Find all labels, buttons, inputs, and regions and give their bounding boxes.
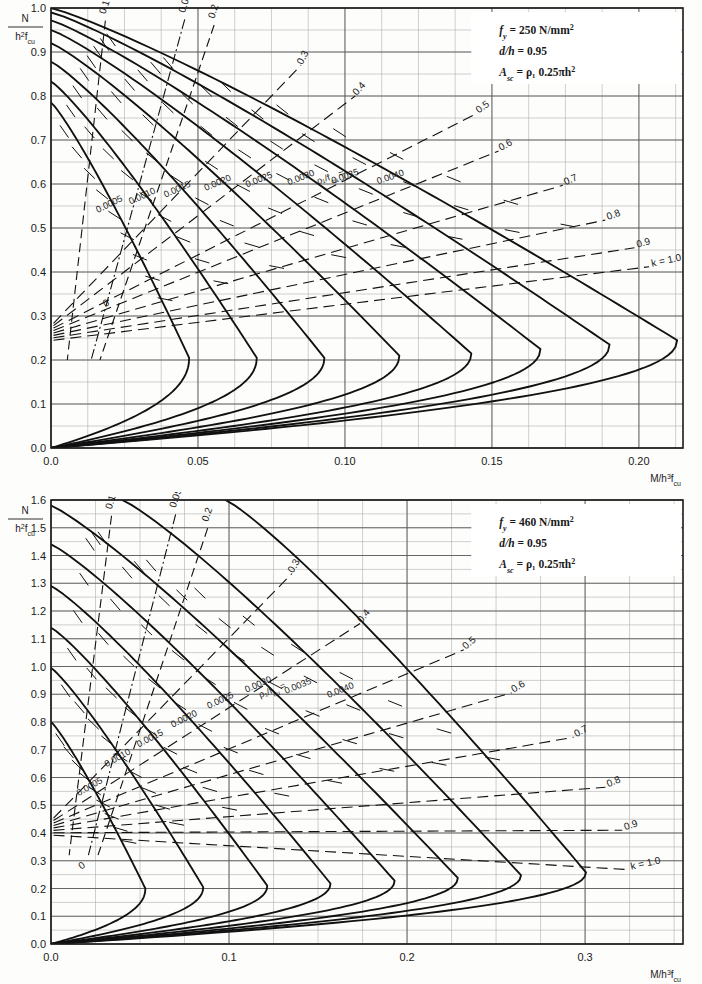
y-tick-label: 0.0 — [31, 938, 46, 950]
y-tick-label: 0.7 — [31, 134, 46, 146]
info-dh: d/h = 0.95 — [499, 537, 547, 549]
y-tick-label: 1.6 — [31, 494, 46, 506]
chart-page: 0.00.10.20.30.40.50.60.70.80.91.00.00.05… — [0, 0, 702, 984]
info-dh: d/h = 0.95 — [499, 45, 547, 57]
y-tick-label: 0.3 — [31, 855, 46, 867]
y-tick-label: 0.9 — [31, 46, 46, 58]
y-tick-label: 0.1 — [31, 398, 46, 410]
k-label: k = 1.0 — [650, 252, 682, 269]
y-tick-label: 0.7 — [31, 744, 46, 756]
x-axis-tick-labels: 0.00.050.100.150.20 — [43, 455, 649, 467]
x-tick-label: 0.0 — [43, 455, 58, 467]
k-label: 0.8 — [605, 773, 622, 789]
k-label: 0.5 — [460, 634, 478, 652]
rho-series-label: ρ₁/fcu = — [315, 168, 346, 189]
k-label: 0.9 — [635, 235, 652, 250]
chart-bottom: 0.00.10.20.30.40.50.60.70.80.91.01.11.21… — [0, 492, 702, 984]
chart-top-container: 0.00.10.20.30.40.50.60.70.80.91.00.00.05… — [0, 0, 702, 492]
y-tick-label: 0.8 — [31, 716, 46, 728]
k-label: 0.8 — [605, 207, 622, 222]
k-label: 0.6 — [497, 136, 515, 152]
chart-bottom-container: 0.00.10.20.30.40.50.60.70.80.91.01.11.21… — [0, 492, 702, 984]
svg-text:h2fcu: h2fcu — [15, 31, 35, 45]
x-tick-label: 0.10 — [334, 455, 355, 467]
y-tick-label: 0.6 — [31, 178, 46, 190]
k-label: k = 1.0 — [630, 854, 662, 871]
y-tick-label: 0.5 — [31, 799, 46, 811]
k-label-lower: 0 — [101, 296, 112, 309]
rho-curve-label: 0.0040 — [375, 168, 405, 187]
x-axis-label: M/h3fcu — [650, 473, 681, 487]
svg-text:N: N — [21, 13, 28, 24]
x-tick-label: 0.3 — [577, 951, 592, 963]
k-label: 0.4 — [350, 79, 368, 97]
k-label: 0.2 — [206, 3, 221, 20]
y-tick-label: 0.5 — [31, 222, 46, 234]
svg-text:M/h3fcu: M/h3fcu — [650, 473, 681, 487]
x-tick-label: 0.20 — [628, 455, 649, 467]
y-tick-label: 1.0 — [31, 661, 46, 673]
x-axis-label: M/h3fcu — [650, 969, 681, 983]
y-tick-label: 0.3 — [31, 310, 46, 322]
y-axis-tick-labels: 0.00.10.20.30.40.50.60.70.80.91.0 — [31, 2, 46, 454]
svg-text:M/h3fcu: M/h3fcu — [650, 969, 681, 983]
k-label: 0.05h — [176, 0, 194, 14]
x-tick-label: 0.05 — [187, 455, 208, 467]
y-tick-label: 1.4 — [31, 550, 46, 562]
x-tick-label: 0.1 — [221, 951, 236, 963]
k-label: 0.5 — [473, 98, 491, 115]
y-tick-label: 1.3 — [31, 577, 46, 589]
x-tick-label: 0.2 — [399, 951, 414, 963]
chart-top: 0.00.10.20.30.40.50.60.70.80.91.00.00.05… — [0, 0, 702, 492]
k-label: 0.7 — [572, 723, 590, 739]
y-tick-label: 0.1 — [31, 910, 46, 922]
y-tick-label: 0.2 — [31, 354, 46, 366]
y-tick-label: 0.0 — [31, 442, 46, 454]
y-tick-label: 0.4 — [31, 266, 46, 278]
k-label: 0.1 — [103, 493, 118, 510]
k-label: 0.4 — [355, 607, 373, 625]
rho-curve-label: 0.0035 — [283, 676, 313, 696]
x-tick-label: 0.0 — [43, 951, 58, 963]
k-label: 0.2 — [199, 506, 214, 523]
y-axis-label: Nh2fcu — [8, 13, 43, 45]
y-tick-label: 0.8 — [31, 90, 46, 102]
y-axis-tick-labels: 0.00.10.20.30.40.50.60.70.80.91.01.11.21… — [31, 494, 46, 950]
y-tick-label: 0.2 — [31, 883, 46, 895]
y-tick-label: 1.2 — [31, 605, 46, 617]
y-tick-label: 0.9 — [31, 688, 46, 700]
y-tick-label: 1.1 — [31, 633, 46, 645]
svg-text:N: N — [21, 505, 28, 516]
y-tick-label: 0.6 — [31, 772, 46, 784]
x-tick-label: 0.15 — [481, 455, 502, 467]
y-tick-label: 1.0 — [31, 2, 46, 14]
k-label: 0.7 — [562, 171, 580, 187]
k-label: 0.1 — [97, 0, 112, 15]
k-label: 0.9 — [622, 817, 639, 832]
y-tick-label: 0.4 — [31, 827, 46, 839]
x-axis-tick-labels: 0.00.10.20.3 — [43, 951, 592, 963]
